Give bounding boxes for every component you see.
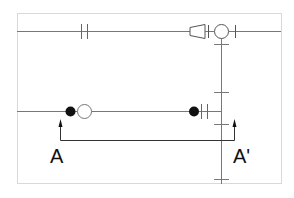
arrow-up-icon <box>233 119 237 127</box>
filled-dot-icon <box>66 107 76 117</box>
open-circle-icon <box>78 105 92 119</box>
section-line <box>59 119 237 141</box>
section-label-start: A <box>50 146 63 166</box>
section-label-end: A' <box>233 146 250 166</box>
piping-diagram <box>0 0 294 198</box>
filled-dot-icon <box>189 107 199 117</box>
reducer-icon <box>190 25 205 39</box>
arrow-up-icon <box>59 119 63 127</box>
valve-icon <box>215 25 229 39</box>
